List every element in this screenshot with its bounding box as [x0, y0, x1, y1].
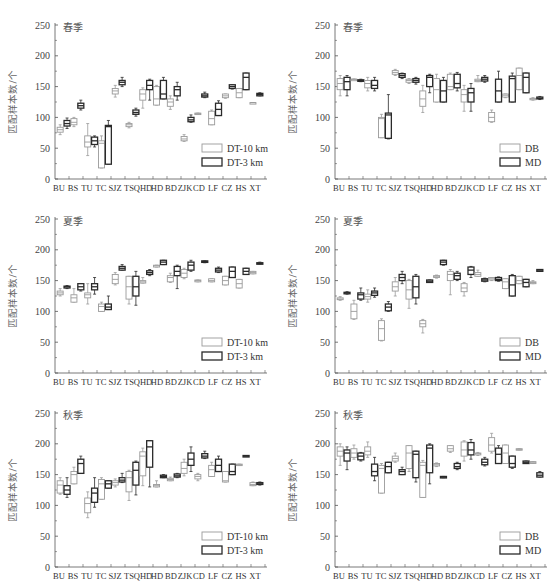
y-axis-label: 匹配样本数/个: [287, 458, 298, 521]
legend: DT-10 kmDT-3 km: [202, 337, 268, 362]
box-item: [413, 451, 419, 482]
box-item: [365, 77, 371, 91]
box-item: [351, 79, 357, 81]
legend-label: DT-10 km: [227, 531, 268, 542]
y-tick-label: 150: [35, 81, 50, 92]
legend-swatch: [202, 352, 222, 360]
legend: DT-10 kmDT-3 km: [202, 143, 268, 168]
box-item: [372, 77, 378, 91]
y-tick-label: 0: [325, 174, 330, 185]
x-category-label: CZ: [222, 571, 233, 581]
box-item: [126, 122, 132, 128]
y-tick-label: 50: [40, 143, 50, 154]
box-item: [378, 464, 384, 494]
y-tick-label: 200: [35, 438, 50, 449]
box-item: [181, 459, 187, 476]
x-category-label: ZJK: [178, 571, 194, 581]
x-category-label: HS: [236, 183, 247, 193]
box-item: [71, 289, 77, 303]
box-item: [243, 73, 249, 90]
box-item: [119, 265, 125, 271]
legend-label: DT-10 km: [227, 337, 268, 348]
box-item: [202, 92, 208, 98]
box-item: [427, 280, 433, 282]
box-item: [147, 79, 153, 100]
box-item: [537, 270, 543, 272]
box-item: [372, 288, 378, 297]
legend-swatch: [500, 158, 520, 166]
box-item: [119, 473, 125, 482]
legend-label: DB: [525, 143, 539, 154]
chart-autumn-db-md: 050100150200250BUBSTUTCSJZTSQHDHDBDZJKCD…: [280, 388, 557, 582]
x-category-label: TC: [376, 571, 387, 581]
box-item: [358, 452, 364, 461]
box-item: [420, 460, 426, 497]
y-tick-label: 100: [35, 112, 50, 123]
box-item: [160, 77, 166, 99]
x-category-label: ZJK: [458, 183, 474, 193]
legend-label: DT-3 km: [227, 157, 263, 168]
box-item: [461, 85, 467, 111]
box-item: [57, 289, 63, 296]
box-item: [195, 280, 201, 282]
box-item: [92, 278, 98, 295]
x-category-label: BS: [348, 571, 359, 581]
x-category-label: TS: [404, 377, 414, 387]
box-item: [105, 296, 111, 310]
season-title: 夏季: [343, 216, 363, 227]
box-item: [188, 447, 194, 472]
box-item: [496, 277, 502, 281]
x-category-label: TC: [376, 183, 387, 193]
box-item: [140, 88, 146, 108]
box-item: [537, 472, 543, 478]
box-item: [378, 319, 384, 341]
boxes: [337, 68, 543, 139]
box-item: [147, 270, 153, 276]
x-category-label: QHD: [414, 571, 432, 581]
box-item: [447, 446, 453, 453]
box-item: [427, 444, 433, 484]
x-category-label: TC: [96, 571, 107, 581]
box-item: [385, 95, 391, 139]
box-item: [496, 71, 502, 102]
x-category-label: LF: [208, 377, 218, 387]
x-category-label: CZ: [222, 377, 233, 387]
season-title: 春季: [343, 22, 363, 33]
legend-label: MD: [525, 351, 541, 362]
chart-summer-db-md: 050100150200250BUBSTUTCSJZTSQHDHDBDZJKCD…: [280, 194, 557, 388]
box-item: [489, 433, 495, 453]
y-tick-label: 200: [35, 244, 50, 255]
season-title: 秋季: [343, 409, 363, 421]
boxes: [337, 260, 543, 341]
box-item: [406, 446, 412, 472]
box-item: [133, 271, 139, 305]
box-item: [229, 267, 235, 277]
box-item: [209, 279, 215, 282]
legend-swatch: [500, 532, 520, 540]
box-item: [188, 115, 194, 122]
boxes: [337, 433, 543, 497]
box-item: [461, 282, 467, 296]
x-category-label: XT: [529, 183, 541, 193]
legend: DBMD: [500, 337, 541, 362]
box-item: [64, 118, 70, 128]
legend-label: DB: [525, 337, 539, 348]
x-category-label: BS: [68, 377, 79, 387]
x-category-label: XT: [249, 377, 261, 387]
x-category-label: CD: [473, 571, 485, 581]
legend-swatch: [202, 546, 222, 554]
box-item: [509, 73, 515, 102]
y-tick-label: 150: [35, 469, 50, 480]
box-item: [482, 457, 488, 466]
box-item: [154, 265, 160, 267]
x-category-label: BD: [445, 183, 457, 193]
box-item: [140, 278, 146, 284]
box-item: [174, 265, 180, 288]
x-category-label: CD: [193, 571, 205, 581]
box-item: [434, 463, 440, 467]
boxes: [57, 260, 263, 311]
x-category-label: CZ: [502, 183, 513, 193]
x-category-label: HD: [151, 377, 163, 387]
y-tick-label: 50: [320, 337, 330, 348]
x-category-label: SJZ: [108, 183, 121, 193]
